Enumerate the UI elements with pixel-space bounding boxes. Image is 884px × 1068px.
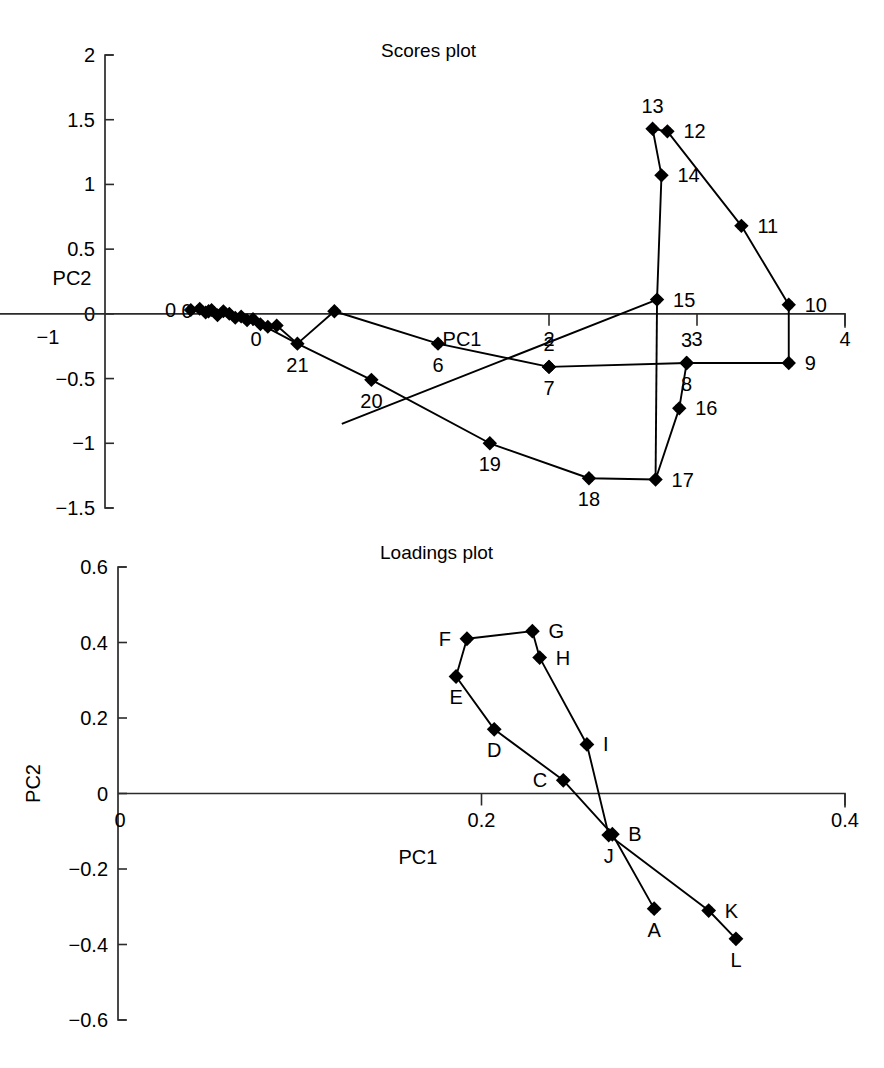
scores-axes: 21.510.50−0.5−1−1.5−10234PC2PC1	[0, 44, 851, 519]
data-point-core	[529, 627, 536, 634]
data-point-core	[536, 654, 543, 661]
y-tick-label: −0.5	[56, 368, 95, 390]
y-tick-label: −1.5	[56, 497, 95, 519]
data-point-core	[664, 128, 671, 135]
point-label-B: B	[628, 823, 641, 845]
data-point-core	[738, 222, 745, 229]
x-axis-label: PC1	[398, 846, 437, 868]
data-point-core	[264, 323, 271, 330]
point-label-H: H	[556, 647, 570, 669]
y-tick-label: 1	[84, 173, 95, 195]
data-point-core	[273, 322, 280, 329]
scores-series: 02367891011121314151617181920210	[165, 95, 827, 510]
y-axis-label: PC2	[22, 764, 44, 803]
data-point-core	[658, 172, 665, 179]
point-label-F: F	[439, 628, 451, 650]
data-point-core	[368, 376, 375, 383]
point-label-19: 19	[479, 453, 501, 475]
data-point-core	[250, 316, 257, 323]
point-label-6: 6	[432, 354, 443, 376]
point-label-21: 21	[286, 354, 308, 376]
data-point-core	[205, 308, 212, 315]
y-tick-label: 0.4	[80, 632, 108, 654]
y-tick-label: −0.4	[69, 934, 108, 956]
point-label-D: D	[487, 739, 501, 761]
x-tick-label: 0.2	[468, 809, 496, 831]
y-tick-label: −1	[72, 432, 95, 454]
x-tick-label: −1	[37, 326, 60, 348]
point-label-12: 12	[683, 120, 705, 142]
data-point-core	[683, 359, 690, 366]
data-point-core	[331, 308, 338, 315]
point-label-17: 17	[672, 469, 694, 491]
x-tick-label: 3	[691, 328, 702, 350]
data-point-core	[785, 359, 792, 366]
scores-plot-panel: Scores plot 21.510.50−0.5−1−1.5−10234PC2…	[0, 0, 884, 540]
point-label-7: 7	[543, 377, 554, 399]
x-tick-label: 0	[250, 328, 261, 350]
data-point-core	[486, 440, 493, 447]
point-label-9: 9	[805, 352, 816, 374]
point-label-J: J	[604, 845, 614, 867]
data-point-core	[583, 741, 590, 748]
point-label-18: 18	[578, 488, 600, 510]
data-point-core	[294, 340, 301, 347]
point-label-0: 0	[181, 300, 192, 322]
y-tick-label: 0.2	[80, 707, 108, 729]
loadings-plot-panel: Loadings plot 0.60.40.20−0.2−0.4−0.600.2…	[0, 528, 884, 1068]
y-tick-label: −0.6	[69, 1009, 108, 1031]
data-point-core	[653, 296, 660, 303]
scores-plot-svg: 21.510.50−0.5−1−1.5−10234PC2PC1023678910…	[0, 0, 884, 540]
point-label-10: 10	[805, 294, 827, 316]
point-label-C: C	[533, 769, 547, 791]
loadings-plot-svg: 0.60.40.20−0.2−0.4−0.600.20.4PC2PC1ABCDE…	[0, 528, 884, 1068]
y-tick-label: 1.5	[67, 109, 95, 131]
data-point-core	[491, 726, 498, 733]
data-point-core	[585, 475, 592, 482]
y-axis-label: PC2	[53, 267, 92, 289]
data-point-core	[560, 777, 567, 784]
point-label-8: 8	[681, 373, 692, 395]
data-point-core	[732, 935, 739, 942]
data-point-core	[605, 831, 612, 838]
point-label-I: I	[603, 733, 609, 755]
point-label-G: G	[548, 620, 564, 642]
y-tick-label: 2	[84, 44, 95, 66]
point-label-3: 3	[681, 329, 692, 351]
point-label-0: 0	[165, 299, 176, 321]
y-tick-label: 0.6	[80, 556, 108, 578]
point-label-2: 2	[543, 333, 554, 355]
x-tick-label: 0.4	[831, 809, 859, 831]
point-label-A: A	[647, 919, 661, 941]
data-point-core	[649, 125, 656, 132]
y-tick-label: 0.5	[67, 238, 95, 260]
point-label-16: 16	[695, 397, 717, 419]
point-label-20: 20	[360, 390, 382, 412]
point-label-K: K	[725, 900, 739, 922]
x-tick-label: 4	[839, 328, 850, 350]
loadings-chain-2	[467, 631, 736, 939]
point-label-11: 11	[757, 215, 778, 237]
x-axis-zero-line	[0, 314, 845, 328]
x-tick-label: 0	[114, 809, 125, 831]
point-label-13: 13	[641, 95, 663, 117]
data-point-core	[676, 405, 683, 412]
data-point-core	[650, 905, 657, 912]
data-point-core	[652, 476, 659, 483]
loadings-series: ABCDEFGHIJKL	[439, 620, 744, 971]
y-tick-label: −0.2	[69, 858, 108, 880]
data-point-core	[705, 907, 712, 914]
data-point-core	[452, 673, 459, 680]
data-point-core	[463, 635, 470, 642]
point-label-E: E	[449, 686, 462, 708]
trajectory-upper	[342, 129, 789, 424]
point-label-14: 14	[677, 164, 699, 186]
y-tick-label: 0	[97, 783, 108, 805]
loadings-chain-1	[456, 639, 654, 909]
point-label-L: L	[730, 949, 741, 971]
trajectory-15-17	[656, 300, 657, 480]
data-point-core	[545, 363, 552, 370]
point-label-15: 15	[673, 289, 695, 311]
data-point-core	[785, 301, 792, 308]
y-axis-spine	[105, 55, 113, 508]
